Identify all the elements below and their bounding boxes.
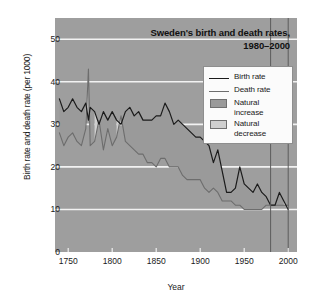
chart-title-line2: 1980–2000 [110,39,290,52]
y-tick-20: 20 [36,162,60,172]
y-tick-50: 50 [36,34,60,44]
x-tick-1750: 1750 [48,256,88,266]
y-tick-40: 40 [36,77,60,87]
legend-item-birth-rate: Birth rate [209,72,288,83]
legend-swatch-icon [209,99,229,109]
y-tick-10: 10 [36,204,60,214]
chart-title: Sweden's birth and death rates, 1980–200… [110,26,290,52]
legend-key-mark [210,99,227,108]
legend-line-icon [209,86,229,96]
legend-item-natural-decrease: Natural decrease [209,119,288,138]
x-tick-1850: 1850 [136,256,176,266]
x-tick-2000: 2000 [268,256,308,266]
x-axis-label: Year [55,282,297,292]
chart-title-line1: Sweden's birth and death rates, [110,26,290,39]
legend-key-mark [210,120,227,129]
legend-key-mark [209,91,229,92]
chart-figure: Sweden's birth and death rates, 1980–200… [0,0,313,308]
y-axis-label: Birth rate and death rate (per 1000) [22,27,32,207]
legend-label: Natural increase [234,98,288,117]
x-tick-1800: 1800 [92,256,132,266]
x-tick-1900: 1900 [180,256,220,266]
legend-label: Death rate [234,85,270,95]
legend-item-natural-increase: Natural increase [209,98,288,117]
chart-legend: Birth rateDeath rateNatural increaseNatu… [203,66,293,144]
y-tick-30: 30 [36,119,60,129]
legend-swatch-icon [209,120,229,130]
legend-label: Birth rate [234,72,265,82]
legend-label: Natural decrease [234,119,288,138]
x-tick-1950: 1950 [224,256,264,266]
legend-item-death-rate: Death rate [209,85,288,96]
legend-line-icon [209,73,229,83]
legend-key-mark [209,78,229,79]
